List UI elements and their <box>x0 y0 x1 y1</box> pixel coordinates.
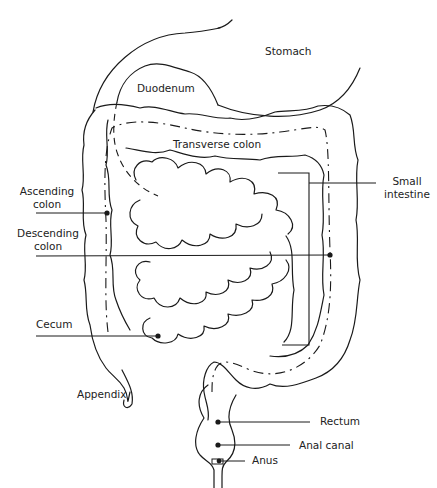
label-appendix: Appendix <box>77 388 126 401</box>
stomach-upper-edge <box>218 20 232 28</box>
label-anus: Anus <box>252 454 278 467</box>
label-transverse-colon: Transverse colon <box>173 138 261 151</box>
dot-anal-canal <box>215 442 220 447</box>
label-ascending-colon-line2: colon <box>18 198 76 211</box>
label-small-intestine-line2: intestine <box>378 188 436 201</box>
label-stomach: Stomach <box>265 45 311 58</box>
label-descending-colon-line2: colon <box>16 240 80 253</box>
label-ascending-colon-line1: Ascending <box>18 185 76 198</box>
small-intestine-coils <box>130 158 294 343</box>
label-anal-canal: Anal canal <box>299 439 354 452</box>
colon-dashdot-centerline <box>105 122 331 392</box>
duodenum-dashed-path <box>114 102 158 196</box>
label-cecum: Cecum <box>36 318 72 331</box>
label-small-intestine-line1: Small <box>378 175 436 188</box>
dot-descending-colon <box>327 252 332 257</box>
stomach-lower-curve <box>218 68 360 116</box>
label-rectum: Rectum <box>320 415 360 428</box>
dot-rectum <box>215 419 220 424</box>
label-ascending-colon: Ascending colon <box>18 185 76 211</box>
rectum-outline <box>196 385 236 488</box>
leader-descending-colon <box>36 255 330 256</box>
label-duodenum: Duodenum <box>137 82 195 95</box>
label-descending-colon: Descending colon <box>16 227 80 253</box>
dot-cecum <box>155 333 160 338</box>
stomach-outline <box>93 28 220 112</box>
label-descending-colon-line1: Descending <box>16 227 80 240</box>
label-small-intestine: Small intestine <box>378 175 436 201</box>
dot-ascending-colon <box>104 210 109 215</box>
small-intestine-bracket <box>278 173 309 345</box>
dot-anus <box>217 459 222 464</box>
